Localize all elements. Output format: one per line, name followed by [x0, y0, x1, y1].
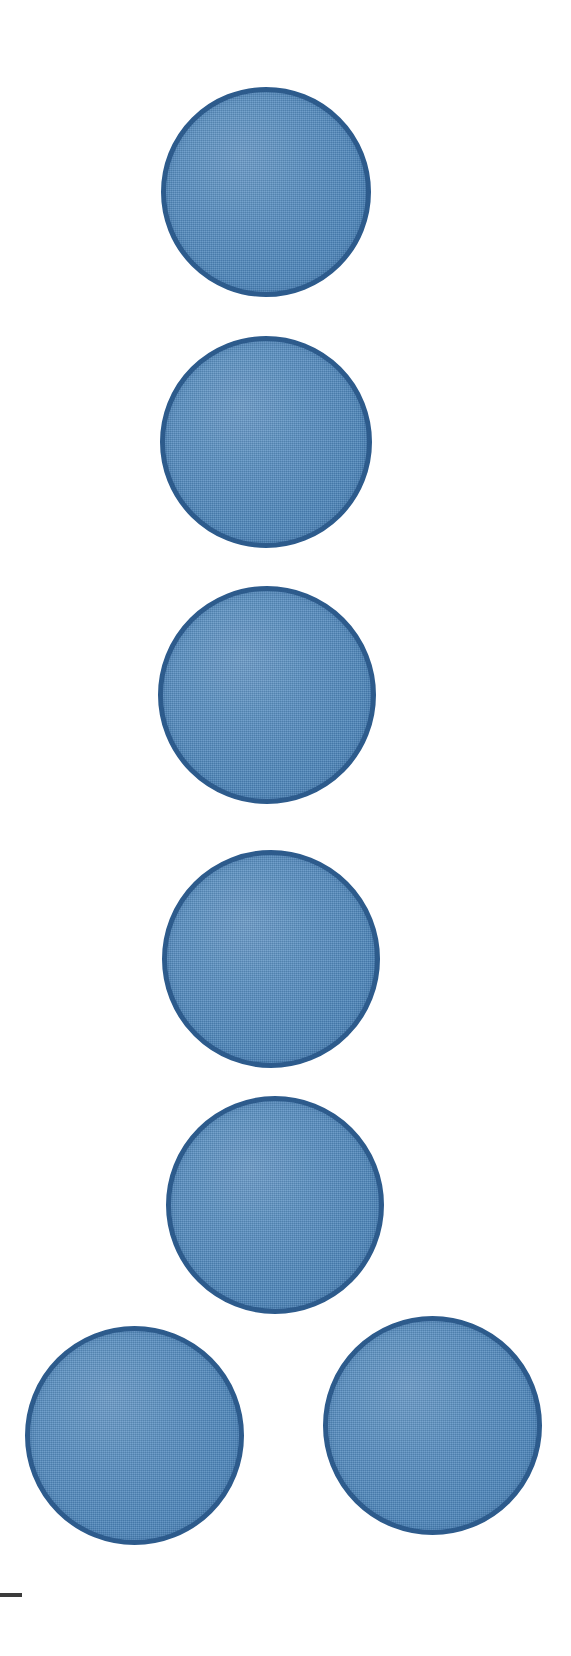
figure-canvas: [0, 0, 571, 1656]
scale-bar: [0, 1593, 22, 1597]
disc-6: [25, 1326, 244, 1545]
disc-4: [162, 850, 380, 1068]
disc-3: [158, 586, 376, 804]
disc-1: [161, 87, 371, 297]
disc-2: [160, 336, 372, 548]
disc-5: [166, 1096, 384, 1314]
disc-7: [323, 1316, 542, 1535]
